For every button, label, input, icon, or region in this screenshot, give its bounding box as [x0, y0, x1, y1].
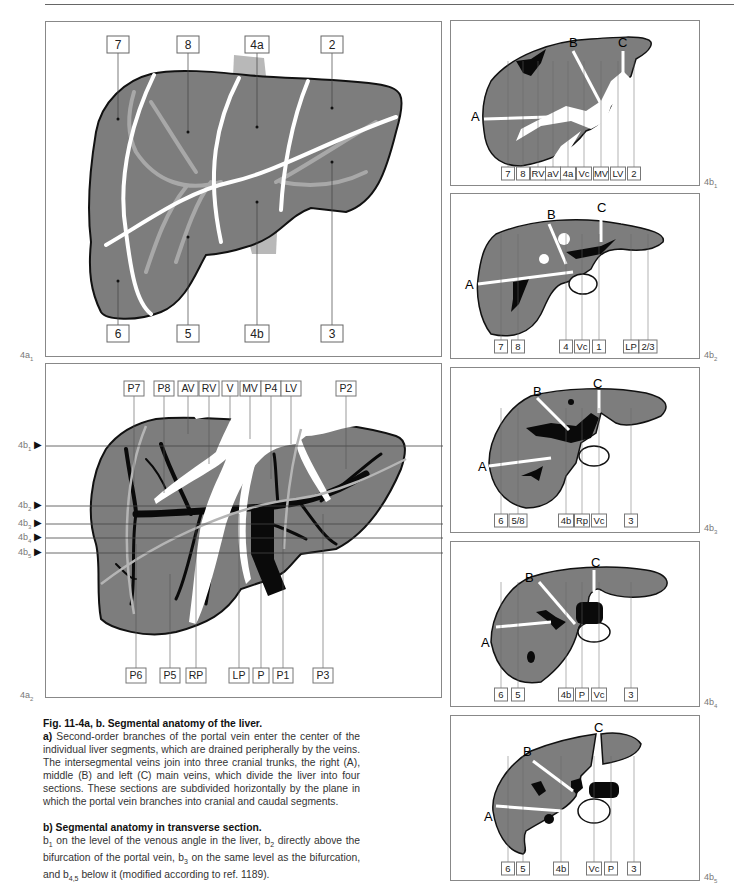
panel-4a2-vascular-anatomy: P7 P8 AV RV V MV P4 LV P2 P6 P5 RP LP P …: [45, 363, 442, 698]
panel-label-4a1: 4a1: [20, 350, 33, 362]
level-marker-4b4: 4b4 ▶: [18, 531, 42, 544]
svg-text:6: 6: [115, 327, 122, 341]
level-marker-4b1: 4b1 ▶: [18, 439, 42, 452]
caption-part-a: a) Second-order branches of the portal v…: [43, 730, 360, 808]
panel-4b2-transverse-section: A B C 784Vc1LP2/3: [450, 193, 700, 359]
triangle-marker-icon: ▶: [34, 531, 42, 542]
figure-caption: Fig. 11-4a, b. Segmental anatomy of the …: [43, 717, 360, 885]
label-box: 3: [625, 582, 638, 701]
vein-label-b: B: [533, 384, 542, 399]
bottom-label-text: Rp: [576, 515, 588, 526]
label-box: P2: [336, 381, 356, 396]
liver-segments-diagram: 7 8 4a 2 6 5 4b 3: [46, 22, 443, 358]
label-box: 3: [628, 756, 641, 875]
level-marker-4b5: 4b5 ▶: [18, 546, 42, 559]
bottom-label-text: 3: [628, 689, 633, 700]
svg-text:P7: P7: [128, 382, 141, 394]
vein-label-b: B: [523, 744, 532, 759]
label-box: P3: [313, 668, 333, 683]
svg-text:LP: LP: [233, 669, 246, 681]
vein-label-c: C: [591, 555, 600, 570]
portal-vein: [589, 782, 619, 798]
label-box: P7: [124, 381, 144, 396]
label-box: P5: [160, 668, 180, 683]
svg-text:P3: P3: [317, 669, 330, 681]
vena-cava: [578, 622, 610, 642]
liver-section-outline: [489, 389, 666, 508]
bottom-label-text: LP: [625, 341, 637, 352]
label-box: LP: [624, 234, 639, 353]
label-box: 3: [321, 325, 343, 342]
bottom-label-text: Vc: [576, 341, 587, 352]
label-box: 4b: [245, 325, 269, 342]
label-box: 5: [177, 325, 199, 342]
vein-label-a: A: [484, 809, 493, 824]
bottom-label-text: 2/3: [641, 341, 654, 352]
transverse-section-b1: A B C 78RVaV4aVcMVLV2: [451, 21, 701, 187]
label-box: 4a: [245, 36, 269, 53]
panel-4a1-liver-segments: 7 8 4a 2 6 5 4b 3: [45, 21, 442, 357]
transverse-section-b4: A B C 654bPVc3: [451, 542, 701, 708]
svg-text:2: 2: [329, 38, 336, 52]
bottom-label-text: 7: [498, 341, 503, 352]
svg-text:P1: P1: [277, 669, 290, 681]
liver-left-lobe: [601, 733, 641, 764]
vein-label-a: A: [478, 459, 487, 474]
svg-text:AV: AV: [181, 382, 194, 394]
bottom-label-text: 5: [515, 689, 520, 700]
svg-text:P5: P5: [164, 669, 177, 681]
bottom-label-text: P: [579, 689, 585, 700]
top-segment-labels: 7 8 4a 2: [107, 36, 343, 53]
vena-cava: [569, 274, 597, 294]
triangle-marker-icon: ▶: [34, 517, 42, 528]
bottom-label-text: 4: [563, 341, 568, 352]
vein-label-c: C: [597, 200, 606, 215]
svg-text:P6: P6: [130, 669, 143, 681]
bottom-label-text: 4b: [561, 515, 572, 526]
panel-4b3-transverse-section: A B C 65/84bRpVc3: [450, 367, 700, 533]
level-marker-4b3: 4b3 ▶: [18, 517, 42, 530]
vein-label-b: B: [569, 35, 578, 50]
portal-dot: [544, 814, 554, 824]
caption-part-b: b1 on the level of the venous angle in t…: [43, 834, 360, 885]
label-box: MV: [240, 381, 261, 396]
transverse-section-b2: A B C 784Vc1LP2/3: [451, 194, 701, 360]
bottom-label-text: 6: [505, 863, 510, 874]
bottom-label-text: 4b: [556, 863, 567, 874]
caption-part-b-title: b) Segmental anatomy in transverse secti…: [43, 821, 360, 834]
bottom-label-text: LV: [613, 168, 625, 179]
label-box: 8: [177, 36, 199, 53]
svg-text:LV: LV: [285, 382, 297, 394]
svg-text:RP: RP: [189, 669, 204, 681]
label-box: RP: [186, 668, 206, 683]
bottom-label-text: 1: [596, 341, 601, 352]
vein-label-a: A: [481, 635, 490, 650]
bottom-label-text: MV: [594, 168, 609, 179]
vessel-labels-bottom: P6 P5 RP LP P P1 P3: [126, 668, 333, 683]
panel-4b5-transverse-section: A B C 654bVcP3: [450, 715, 700, 881]
label-box: 6: [107, 325, 129, 342]
label-box: V: [222, 381, 238, 396]
liver-section-outline: [477, 220, 663, 336]
bottom-label-text: 5/8: [511, 515, 524, 526]
label-box: 2/3: [639, 234, 657, 353]
svg-text:P4: P4: [265, 382, 278, 394]
vena-cava: [579, 446, 609, 466]
panel-label-4a2: 4a2: [20, 690, 33, 702]
bottom-label-text: 7: [505, 168, 510, 179]
label-box: 2: [321, 36, 343, 53]
panel-label-4b3: 4b3: [704, 523, 717, 535]
bottom-label-text: 8: [520, 168, 525, 179]
label-box: P1: [273, 668, 293, 683]
vessel-labels-top: P7 P8 AV RV V MV P4 LV P2: [124, 381, 356, 396]
label-box: LV: [281, 381, 301, 396]
vascular-anatomy-diagram: P7 P8 AV RV V MV P4 LV P2 P6 P5 RP LP P …: [46, 364, 443, 699]
bottom-label-text: Vc: [578, 168, 589, 179]
vein-label-c: C: [594, 720, 603, 735]
vein-label-c: C: [593, 376, 602, 391]
svg-text:P8: P8: [158, 382, 171, 394]
svg-text:4b: 4b: [250, 327, 264, 341]
bottom-label-text: Vc: [593, 515, 604, 526]
label-box: 3: [625, 408, 638, 527]
white-spot: [539, 254, 549, 264]
